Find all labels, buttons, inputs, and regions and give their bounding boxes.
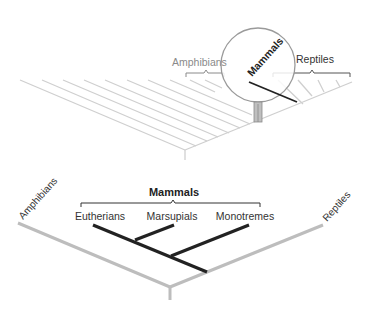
magnifying-glass-icon xyxy=(221,28,297,122)
amphibians-label-bottom: Amphibians xyxy=(16,175,59,221)
mammals-bracket xyxy=(81,200,260,207)
reptiles-label-top: Reptiles xyxy=(296,53,334,65)
marsupials-branch xyxy=(135,225,174,240)
mammals-clade-title: Mammals xyxy=(149,186,199,198)
reptiles-label-bottom: Reptiles xyxy=(320,189,352,223)
bottom-tree-backbone xyxy=(18,223,323,300)
taxon-label-monotremes: Monotremes xyxy=(216,210,274,222)
monotremes-branch xyxy=(171,225,249,256)
amphibians-bracket-top xyxy=(186,70,224,77)
taxon-label-eutherians: Eutherians xyxy=(75,210,125,222)
top-tree xyxy=(20,80,352,160)
amphibians-label-top: Amphibians xyxy=(172,56,227,68)
taxon-label-marsupials: Marsupials xyxy=(147,210,198,222)
phylogeny-diagram: Amphibians Reptiles Mammals Mammals Euth… xyxy=(0,0,374,310)
